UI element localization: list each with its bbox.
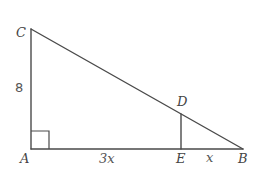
measurement-eb: x bbox=[206, 150, 214, 165]
triangle-diagram: C A D E B 8 3x x bbox=[0, 0, 264, 179]
vertex-label-b: B bbox=[237, 151, 248, 166]
segment-cb bbox=[31, 29, 243, 149]
vertex-label-c: C bbox=[16, 25, 26, 40]
right-angle-marker bbox=[31, 131, 49, 149]
measurement-ac: 8 bbox=[15, 80, 23, 95]
measurement-ae: 3x bbox=[99, 151, 115, 166]
vertex-label-d: D bbox=[176, 94, 188, 109]
vertex-label-a: A bbox=[19, 151, 29, 166]
vertex-label-e: E bbox=[175, 151, 186, 166]
